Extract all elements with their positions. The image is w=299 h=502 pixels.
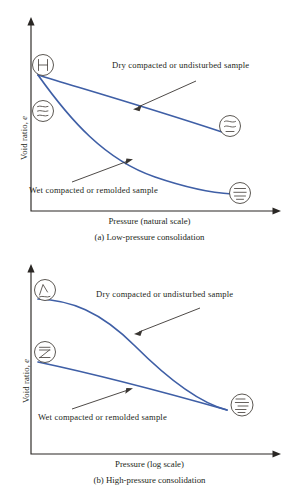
- panel-a-annotation-wet-label: Wet compacted or remolded sample: [29, 186, 158, 195]
- curve-dry-compacted: [38, 75, 222, 132]
- panel-b-y-axis-label: Void ratio, e: [21, 359, 31, 403]
- pointer-wet-arrowhead: [125, 388, 133, 394]
- icon-soil-structure-flocculated-a: [33, 55, 54, 76]
- y-axis-arrowhead: [27, 264, 34, 273]
- panel-a-x-axis-label: Pressure (natural scale): [0, 216, 299, 226]
- figure-low-pressure-consolidation: Void ratio, e Dry compacted or undisturb…: [0, 0, 299, 251]
- panel-a-annotation-dry-label: Dry compacted or undisturbed sample: [112, 61, 249, 70]
- curve-wet-compacted: [38, 362, 227, 410]
- icon-soil-structure-flocculated-b: [35, 280, 56, 301]
- icon-soil-structure-intermediate-a: [220, 116, 241, 137]
- pointer-dry: [139, 308, 200, 332]
- pointer-dry-arrowhead: [134, 330, 142, 336]
- panel-a-y-axis-label: Void ratio, e: [19, 116, 29, 160]
- icon-soil-structure-oriented-a: [230, 183, 251, 204]
- icon-soil-structure-dispersed-a: [33, 101, 54, 122]
- pointer-wet: [72, 161, 128, 182]
- panel-a-plot: [0, 0, 299, 251]
- panel-a-caption: (a) Low-pressure consolidation: [0, 232, 299, 242]
- panel-b-annotation-dry-label: Dry compacted or undisturbed sample: [96, 290, 233, 299]
- panel-b-annotation-wet-label: Wet compacted or remolded sample: [38, 413, 167, 422]
- icon-soil-structure-oriented-b: [231, 394, 253, 416]
- panel-a-curves: [38, 75, 232, 194]
- pointer-wet-arrowhead: [125, 159, 133, 165]
- icon-soil-structure-dispersed-b: [35, 342, 56, 363]
- x-axis-arrowhead: [273, 207, 282, 214]
- figure-high-pressure-consolidation: Void ratio, e Dry compacted or undisturb…: [0, 251, 299, 502]
- curve-wet-compacted: [38, 75, 232, 194]
- panel-b-caption: (b) High-pressure consolidation: [0, 475, 299, 485]
- panel-b-annotation-pointers: [72, 308, 200, 409]
- panel-b-curves: [38, 299, 227, 410]
- pointer-dry: [138, 81, 196, 107]
- x-axis-arrowhead: [273, 450, 282, 457]
- curve-dry-compacted: [38, 299, 227, 410]
- y-axis-arrowhead: [27, 17, 34, 26]
- pointer-dry-arrowhead: [133, 106, 142, 112]
- panel-a-annotation-pointers: [72, 81, 196, 182]
- pointer-wet: [72, 390, 128, 409]
- panel-b-x-axis-label: Pressure (log scale): [0, 459, 299, 469]
